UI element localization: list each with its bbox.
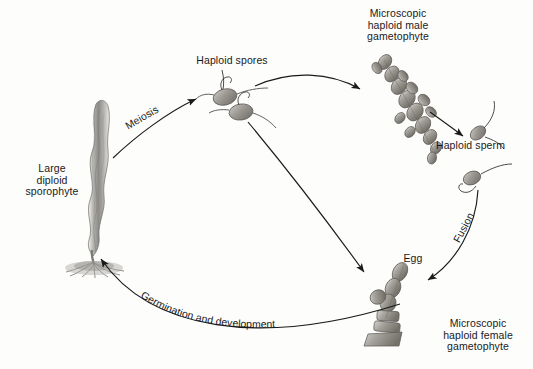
- life-cycle-diagram: Germination and development Largediploid…: [0, 0, 533, 369]
- haploid-spore-upper-illustration: [196, 77, 268, 108]
- germination-label: Germination and development: [139, 288, 275, 329]
- label-microscopic-haploid-female-gametophyte: Microscopichaploid femalegametophyte: [424, 318, 532, 353]
- haploid-sperm-lower-illustration: [459, 164, 512, 192]
- label-large-diploid-sporophyte: Largediploidsporophyte: [14, 163, 90, 198]
- spore-to-female-arrow: [248, 122, 364, 272]
- female-gametophyte-illustration: [364, 260, 411, 346]
- label-haploid-spores: Haploid spores: [186, 55, 278, 67]
- label-haploid-sperm: Haploid sperm: [436, 140, 528, 152]
- label-egg: Egg: [393, 253, 433, 265]
- label-microscopic-haploid-male-gametophyte: Microscopichaploid malegametophyte: [337, 8, 459, 43]
- spore-to-male-arrow: [255, 75, 360, 89]
- male-gametophyte-illustration: [370, 52, 444, 165]
